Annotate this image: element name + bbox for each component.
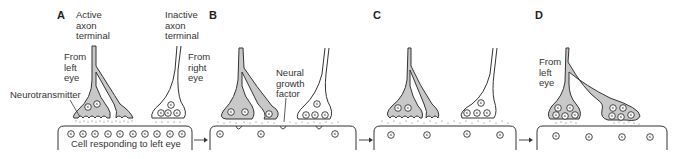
label-from-right-eye: From right eye	[188, 52, 210, 84]
arrow-a-to-b	[194, 138, 208, 143]
growth-factor-pointer	[284, 98, 286, 122]
growth-factor-dots	[382, 121, 509, 124]
panel-letter-d: D	[535, 9, 543, 21]
growth-factor-dots	[218, 122, 339, 124]
label-from-left-eye: From left eye	[64, 52, 86, 84]
label-neural-growth-factor: Neural growth factor	[276, 68, 305, 100]
postsynaptic-cell	[210, 126, 356, 150]
neurotransmitter-dots	[556, 122, 640, 125]
arrow-c-to-d	[519, 138, 533, 143]
active-axon-terminal	[221, 48, 278, 119]
panel-c	[374, 48, 516, 150]
panel-letter-c: C	[373, 9, 381, 21]
postsynaptic-cell	[374, 126, 516, 150]
neurotransmitter-dots	[76, 121, 181, 123]
label-cell-responding-to-left-eye: Cell responding to left eye	[71, 139, 181, 150]
label-active-axon-terminal: Active axon terminal	[76, 10, 110, 42]
arrow-b-to-c	[359, 138, 373, 143]
inactive-axon-terminal	[461, 48, 497, 118]
label-from-left-eye-d: From left eye	[539, 57, 561, 89]
panel-letter-b: B	[209, 9, 217, 21]
cell-receptors	[68, 131, 186, 138]
panel-letter-a: A	[57, 9, 65, 21]
label-inactive-axon-terminal: Inactive axon terminal	[165, 10, 199, 42]
label-neurotransmitter: Neurotransmitter	[10, 90, 81, 101]
